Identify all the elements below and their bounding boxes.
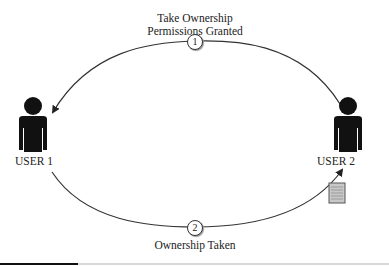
- user1-label: USER 1: [6, 155, 62, 168]
- top-arrow-arc: [53, 41, 340, 112]
- bottom-arrow-arc: [52, 170, 342, 227]
- step1-label-line1: Take Ownership: [120, 12, 270, 25]
- user2-person-icon: [334, 97, 362, 152]
- ownership-diagram: Take Ownership Permissions Granted 1 2 O…: [0, 0, 389, 266]
- bottom-divider-accent: [0, 263, 78, 265]
- step2-label: Ownership Taken: [120, 239, 270, 252]
- document-icon: [329, 183, 345, 203]
- step1-number-badge: 1: [187, 34, 203, 50]
- user2-label: USER 2: [306, 155, 366, 168]
- step2-number-badge: 2: [187, 220, 203, 236]
- user1-person-icon: [19, 97, 47, 152]
